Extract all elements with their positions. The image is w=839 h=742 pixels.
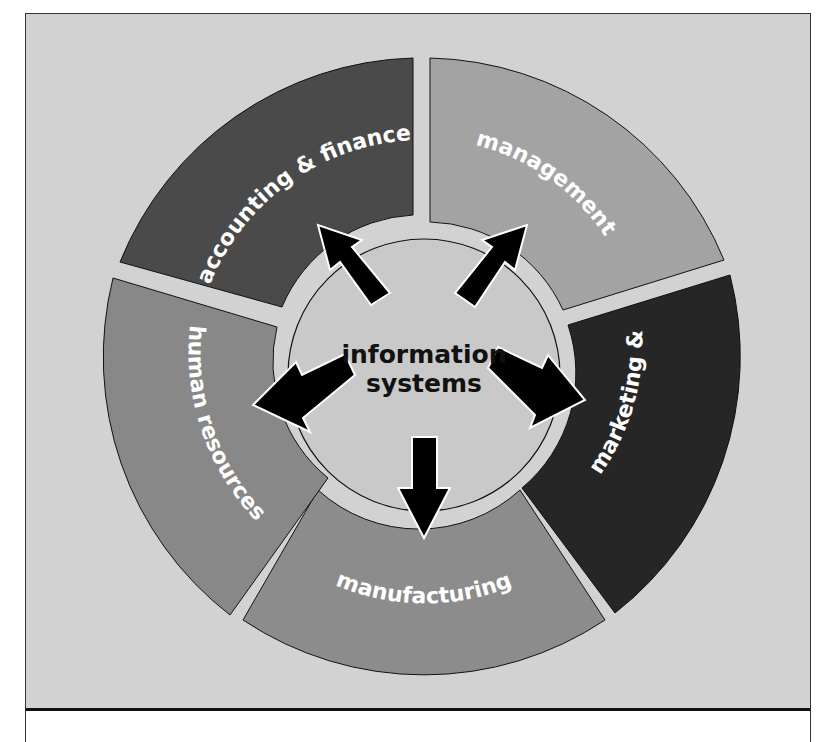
info-systems-diagram: information systems accounting & finance… (0, 0, 839, 742)
center-label-line2: systems (366, 369, 482, 398)
center-label-line1: information (341, 340, 506, 369)
